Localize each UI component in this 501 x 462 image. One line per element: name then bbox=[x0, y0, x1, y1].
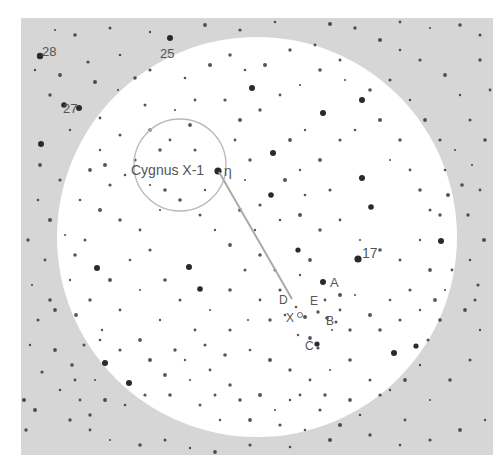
bright-star bbox=[197, 286, 203, 292]
star bbox=[88, 298, 91, 301]
star bbox=[459, 94, 461, 96]
star bbox=[458, 428, 462, 432]
star bbox=[309, 379, 312, 382]
star bbox=[476, 283, 479, 286]
bright-star bbox=[413, 343, 418, 348]
star bbox=[109, 439, 111, 441]
star bbox=[258, 203, 261, 206]
star bbox=[259, 299, 262, 302]
star bbox=[33, 408, 37, 412]
star bbox=[148, 358, 152, 362]
star bbox=[408, 288, 411, 291]
star bbox=[254, 229, 256, 231]
star bbox=[70, 363, 74, 367]
star bbox=[353, 26, 356, 29]
star bbox=[409, 169, 412, 172]
star bbox=[184, 359, 186, 361]
star bbox=[64, 234, 66, 236]
star bbox=[238, 398, 242, 402]
star bbox=[444, 169, 447, 172]
star bbox=[463, 308, 467, 312]
star bbox=[323, 393, 326, 396]
star bbox=[219, 419, 221, 421]
label-star-B: B bbox=[326, 314, 334, 328]
star bbox=[298, 213, 302, 217]
star bbox=[482, 238, 486, 242]
star bbox=[179, 299, 182, 302]
star bbox=[316, 346, 319, 349]
star bbox=[244, 179, 246, 181]
label-star-25: 25 bbox=[160, 46, 174, 61]
star bbox=[34, 69, 36, 71]
star bbox=[94, 379, 96, 381]
star bbox=[59, 389, 62, 392]
bright-star bbox=[391, 350, 397, 356]
star bbox=[451, 269, 454, 272]
star bbox=[354, 294, 356, 296]
star bbox=[479, 34, 482, 37]
star bbox=[99, 339, 102, 342]
star bbox=[378, 393, 381, 396]
star bbox=[37, 199, 40, 202]
star bbox=[299, 274, 301, 276]
star bbox=[466, 213, 469, 216]
star bbox=[331, 329, 333, 331]
star bbox=[419, 364, 421, 366]
star bbox=[53, 308, 57, 312]
star bbox=[378, 328, 382, 332]
star bbox=[73, 33, 77, 37]
star bbox=[268, 358, 272, 362]
star bbox=[108, 183, 111, 186]
star bbox=[399, 319, 402, 322]
star bbox=[418, 188, 422, 192]
star bbox=[369, 379, 372, 382]
star bbox=[209, 369, 212, 372]
star bbox=[288, 138, 292, 142]
label-star-D: D bbox=[279, 293, 288, 307]
star bbox=[40, 370, 43, 373]
label-star-A: A bbox=[330, 275, 339, 290]
star bbox=[368, 88, 372, 92]
star bbox=[429, 209, 432, 212]
star bbox=[438, 213, 441, 216]
star bbox=[54, 29, 56, 31]
star bbox=[248, 418, 252, 422]
star bbox=[248, 158, 251, 161]
star bbox=[159, 319, 161, 321]
star bbox=[258, 108, 261, 111]
star bbox=[429, 399, 431, 401]
star bbox=[469, 119, 472, 122]
star bbox=[223, 353, 227, 357]
star bbox=[348, 328, 351, 331]
star bbox=[168, 393, 172, 397]
star bbox=[244, 269, 247, 272]
star bbox=[44, 259, 47, 262]
star bbox=[31, 284, 33, 286]
star bbox=[249, 349, 252, 352]
label-star-17: 17 bbox=[362, 245, 378, 261]
star bbox=[304, 429, 307, 432]
label-star-C: C bbox=[305, 339, 314, 353]
bright-star bbox=[438, 238, 444, 244]
star bbox=[263, 63, 267, 67]
star bbox=[214, 394, 217, 397]
star bbox=[213, 450, 217, 454]
star bbox=[471, 164, 473, 166]
star bbox=[58, 73, 62, 77]
star bbox=[324, 299, 327, 302]
star bbox=[204, 344, 207, 347]
star bbox=[189, 379, 191, 381]
star bbox=[79, 199, 82, 202]
star bbox=[203, 23, 207, 27]
star bbox=[143, 393, 146, 396]
bright-star bbox=[320, 110, 326, 116]
star bbox=[228, 243, 232, 247]
star bbox=[328, 188, 331, 191]
star bbox=[448, 378, 452, 382]
star bbox=[289, 446, 292, 449]
star bbox=[258, 253, 262, 257]
star bbox=[328, 22, 332, 26]
star bbox=[26, 238, 29, 241]
star bbox=[446, 193, 450, 197]
star bbox=[274, 409, 276, 411]
